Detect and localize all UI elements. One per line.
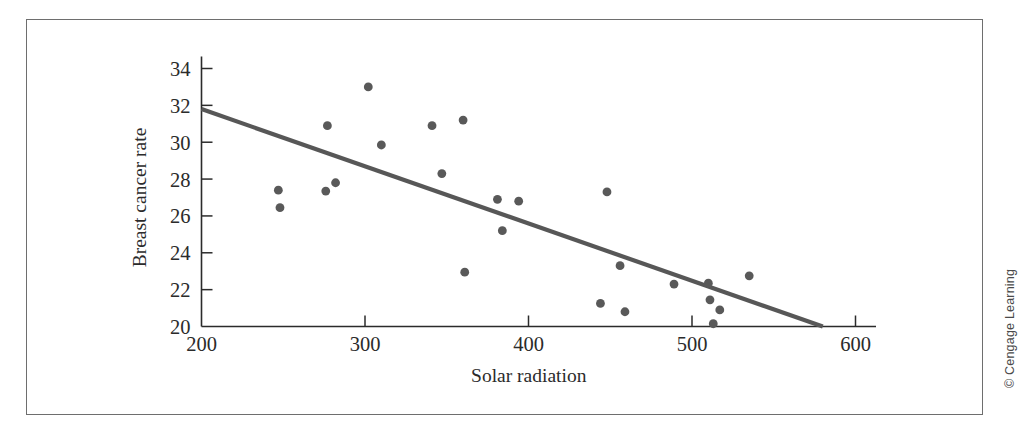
- x-axis-tick-label: 300: [350, 333, 381, 355]
- y-axis-tick-label: 24: [170, 242, 191, 264]
- x-axis-tick-label: 400: [513, 333, 544, 355]
- y-axis-tick-label: 30: [170, 132, 191, 154]
- data-points: [274, 83, 754, 329]
- y-axis-tick-label: 32: [170, 95, 191, 117]
- data-point: [274, 186, 283, 195]
- data-point: [323, 121, 332, 130]
- data-point: [460, 268, 469, 277]
- data-point: [709, 319, 718, 328]
- data-point: [377, 141, 386, 150]
- data-point: [514, 197, 523, 206]
- data-point: [459, 116, 468, 125]
- y-axis-tick-label: 28: [170, 169, 191, 191]
- axes-group: [202, 57, 877, 327]
- data-point: [596, 299, 605, 308]
- data-point: [603, 188, 612, 197]
- data-point: [276, 203, 285, 212]
- trendline: [202, 109, 823, 326]
- figure-root: 2022242628303234200300400500600 Solar ra…: [0, 0, 1024, 447]
- y-axis-tick-label: 26: [170, 205, 191, 227]
- data-point: [331, 178, 340, 187]
- data-point: [321, 187, 330, 196]
- x-axis-tick-label: 200: [186, 333, 217, 355]
- scatter-plot: 2022242628303234200300400500600 Solar ra…: [0, 0, 1024, 447]
- data-point: [706, 295, 715, 304]
- ticks-group: [202, 69, 856, 327]
- y-axis-tick-label: 22: [170, 279, 191, 301]
- data-point: [621, 307, 630, 316]
- data-point: [364, 83, 373, 92]
- data-point: [670, 280, 679, 289]
- data-point: [428, 121, 437, 130]
- data-point: [437, 169, 446, 178]
- x-axis-tick-label: 600: [840, 333, 871, 355]
- tick-labels-group: 2022242628303234200300400500600: [170, 58, 871, 355]
- x-axis-tick-label: 500: [677, 333, 708, 355]
- data-point: [745, 271, 754, 280]
- data-point: [715, 306, 724, 315]
- y-axis-title: Breast cancer rate: [129, 128, 150, 268]
- copyright-credit: © Cengage Learning: [1003, 269, 1017, 388]
- y-axis-tick-label: 34: [170, 58, 191, 80]
- data-point: [616, 261, 625, 270]
- data-point: [493, 195, 502, 204]
- x-axis-title: Solar radiation: [471, 365, 587, 386]
- data-point: [704, 279, 713, 288]
- data-point: [498, 226, 507, 235]
- regression-line: [202, 109, 823, 326]
